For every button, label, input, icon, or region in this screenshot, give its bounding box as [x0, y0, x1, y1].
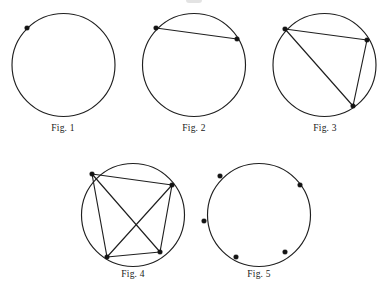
chord-AB	[285, 29, 367, 40]
chord-BD	[107, 185, 172, 257]
figure-caption: Fig. 4	[121, 269, 144, 279]
point-C	[283, 250, 287, 254]
figure-1: Fig. 1	[12, 14, 115, 134]
figure-4: Fig. 4	[82, 164, 185, 280]
point-B	[170, 183, 174, 187]
point-B	[235, 37, 239, 41]
point-E	[202, 219, 206, 223]
figure-caption: Fig. 1	[51, 123, 74, 133]
figure-5: Fig. 5	[202, 164, 311, 280]
chord-AB	[156, 28, 237, 39]
point-A	[154, 26, 158, 30]
figure-board: Fig. 1Fig. 2Fig. 3Fig. 4Fig. 5	[0, 0, 383, 288]
chord-DA	[92, 174, 107, 257]
figure-2: Fig. 2	[143, 14, 246, 134]
point-A	[25, 26, 29, 30]
point-C	[158, 250, 162, 254]
chord-AC	[285, 29, 353, 106]
figure-caption: Fig. 5	[247, 269, 270, 279]
chord-AC	[92, 174, 160, 252]
chord-CD	[107, 252, 160, 257]
point-B	[365, 38, 369, 42]
point-D	[234, 255, 238, 259]
point-D	[105, 255, 109, 259]
point-A	[218, 174, 222, 178]
point-C	[351, 104, 355, 108]
point-A	[90, 172, 94, 176]
figure-3: Fig. 3	[273, 14, 376, 134]
circle-outline	[208, 164, 311, 267]
point-A	[283, 27, 287, 31]
chord-BC	[160, 185, 172, 252]
chord-AB	[92, 174, 172, 185]
point-B	[298, 183, 302, 187]
figure-caption: Fig. 3	[313, 123, 336, 133]
figures-svg: Fig. 1Fig. 2Fig. 3Fig. 4Fig. 5	[0, 0, 383, 288]
figure-caption: Fig. 2	[182, 123, 205, 133]
